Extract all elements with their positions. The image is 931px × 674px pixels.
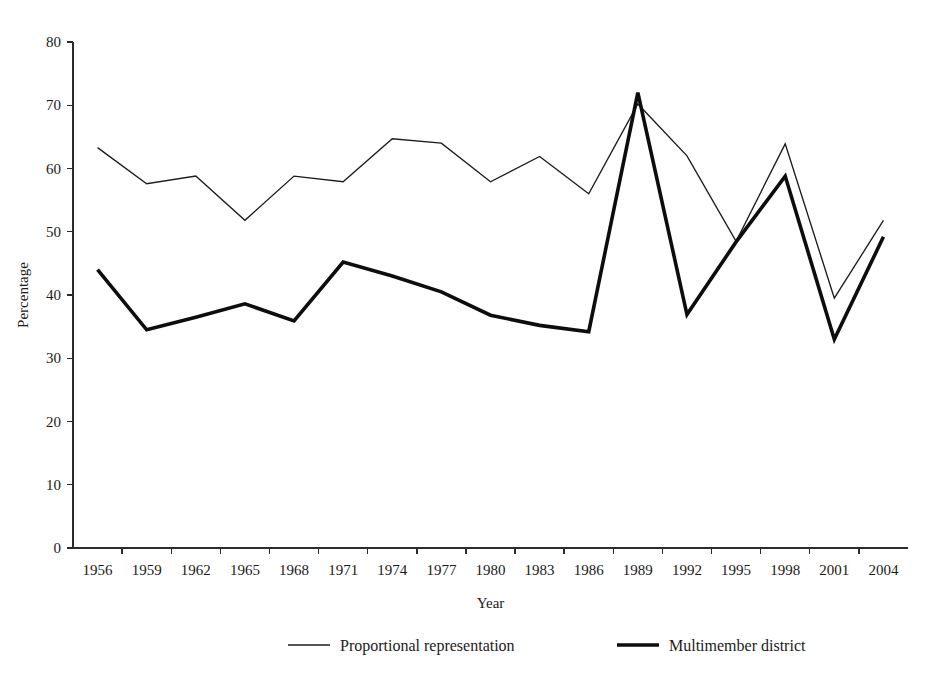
y-axis-tick-label: 70 bbox=[46, 97, 61, 113]
y-axis-tick-label: 60 bbox=[46, 161, 61, 177]
legend-label-multimember-district: Multimember district bbox=[669, 637, 806, 654]
series-line-multimember-district bbox=[98, 93, 884, 340]
x-axis-tick-label: 1974 bbox=[377, 562, 408, 578]
y-axis-tick-label: 20 bbox=[46, 414, 61, 430]
x-axis-tick-label: 1989 bbox=[623, 562, 653, 578]
y-axis-tick-label: 50 bbox=[46, 224, 61, 240]
y-axis-tick-labels: 01020304050607080 bbox=[46, 34, 61, 556]
x-axis-title: Year bbox=[477, 595, 505, 611]
x-axis-tick-label: 1965 bbox=[230, 562, 260, 578]
x-axis-tick-label: 1980 bbox=[476, 562, 506, 578]
y-axis-tick-label: 0 bbox=[54, 540, 62, 556]
x-axis-tick-label: 1983 bbox=[525, 562, 555, 578]
x-axis-tick-labels: 1956195919621965196819711974197719801983… bbox=[83, 562, 899, 578]
y-axis-tick-label: 30 bbox=[46, 350, 61, 366]
x-axis-tick-label: 2001 bbox=[819, 562, 849, 578]
x-axis-tick-label: 1986 bbox=[574, 562, 605, 578]
chart-figure: 01020304050607080 1956195919621965196819… bbox=[0, 0, 931, 674]
x-axis-tick-label: 1956 bbox=[83, 562, 114, 578]
x-axis-tick-label: 1968 bbox=[279, 562, 309, 578]
x-axis-tick-label: 1995 bbox=[721, 562, 751, 578]
x-axis-tick-label: 1962 bbox=[181, 562, 211, 578]
x-axis-tick-label: 1959 bbox=[132, 562, 162, 578]
line-chart: 01020304050607080 1956195919621965196819… bbox=[0, 0, 931, 674]
y-axis-tick-label: 40 bbox=[46, 287, 61, 303]
y-axis-title: Percentage bbox=[15, 262, 31, 328]
y-axis-tick-label: 80 bbox=[46, 34, 61, 50]
y-axis-tick-group bbox=[67, 42, 73, 548]
legend-label-proportional-representation: Proportional representation bbox=[340, 637, 515, 655]
x-axis-tick-label: 1992 bbox=[672, 562, 702, 578]
chart-legend: Proportional representation Multimember … bbox=[288, 637, 806, 655]
x-axis-tick-group bbox=[122, 548, 859, 554]
x-axis-tick-label: 1977 bbox=[426, 562, 457, 578]
x-axis-tick-label: 1998 bbox=[770, 562, 800, 578]
x-axis-tick-label: 1971 bbox=[328, 562, 358, 578]
x-axis-tick-label: 2004 bbox=[868, 562, 899, 578]
y-axis-tick-label: 10 bbox=[46, 477, 61, 493]
